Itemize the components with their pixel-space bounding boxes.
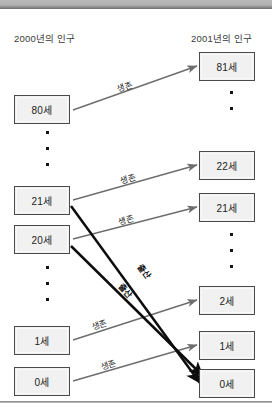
- left-box-age-21-label: 21세: [31, 193, 52, 208]
- left-ellipsis-upper: [46, 131, 49, 166]
- ellipsis-dot: [46, 163, 49, 166]
- left-box-age-1[interactable]: 1세: [14, 326, 70, 355]
- left-box-age-20-label: 20세: [31, 232, 52, 247]
- left-box-age-1-label: 1세: [34, 333, 49, 348]
- right-box-age-0-label: 0세: [219, 376, 234, 391]
- right-ellipsis-lower: [230, 233, 233, 268]
- ellipsis-dot: [230, 233, 233, 236]
- ellipsis-dot: [46, 282, 49, 285]
- right-box-age-2[interactable]: 2세: [199, 286, 255, 315]
- right-box-age-0[interactable]: 0세: [199, 369, 255, 398]
- left-box-age-20[interactable]: 20세: [14, 225, 70, 254]
- right-box-age-2-label: 2세: [219, 293, 234, 308]
- population-cohort-diagram: 2000년의 인구 2001년의 인구 80세: [0, 0, 272, 418]
- ellipsis-dot: [230, 249, 233, 252]
- left-ellipsis-lower: [46, 266, 49, 301]
- right-box-age-22[interactable]: 22세: [199, 151, 255, 180]
- right-box-age-21[interactable]: 21세: [199, 193, 255, 222]
- right-box-age-1[interactable]: 1세: [199, 331, 255, 360]
- right-ellipsis-upper: [230, 91, 233, 110]
- left-box-age-21[interactable]: 21세: [14, 186, 70, 215]
- ellipsis-dot: [230, 107, 233, 110]
- ellipsis-dot: [230, 91, 233, 94]
- arrow-survival-21-to-22: [73, 165, 197, 200]
- right-box-age-21-label: 21세: [216, 200, 237, 215]
- right-box-age-22-label: 22세: [216, 158, 237, 173]
- ellipsis-dot: [46, 298, 49, 301]
- left-box-age-80[interactable]: 80세: [14, 95, 70, 124]
- ellipsis-dot: [230, 265, 233, 268]
- left-box-age-0-label: 0세: [34, 374, 49, 389]
- ellipsis-dot: [46, 266, 49, 269]
- arrow-birth-21-to-0: [71, 206, 200, 383]
- right-box-age-81-label: 81세: [216, 59, 237, 74]
- right-box-age-81[interactable]: 81세: [199, 52, 255, 81]
- left-box-age-80-label: 80세: [31, 102, 52, 117]
- arrow-survival-80-to-81: [73, 66, 197, 110]
- right-box-age-1-label: 1세: [219, 338, 234, 353]
- ellipsis-dot: [46, 131, 49, 134]
- left-box-age-0[interactable]: 0세: [14, 367, 70, 396]
- ellipsis-dot: [46, 147, 49, 150]
